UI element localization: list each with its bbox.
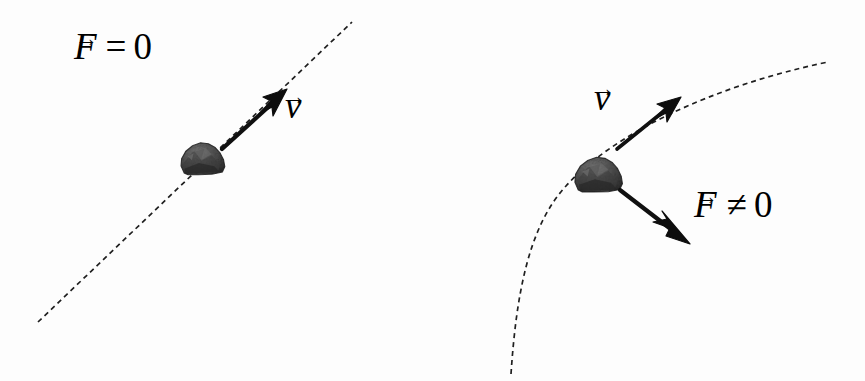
not-equals-sign: ≠ [727, 186, 747, 223]
velocity-arrow-right [617, 97, 681, 149]
physics-diagram: F → =0 v → v → F → ≠0 [0, 0, 865, 381]
force-value-left: 0 [133, 28, 152, 65]
rock-right [572, 155, 623, 193]
label-velocity-right: v → [594, 79, 610, 116]
velocity-vector-symbol-left: v → [285, 87, 301, 124]
label-velocity-left: v → [285, 87, 301, 124]
equals-sign: = [106, 28, 127, 65]
left-panel-group [38, 22, 352, 322]
force-arrow-right [620, 190, 690, 244]
label-force-not-equals-zero: F → ≠0 [694, 186, 772, 223]
right-panel-group [511, 62, 828, 374]
velocity-arrow-left [222, 89, 287, 149]
force-value-right: 0 [754, 186, 773, 223]
label-force-equals-zero: F → =0 [74, 28, 152, 65]
rock-left [178, 141, 226, 176]
velocity-vector-symbol-right: v → [594, 79, 610, 116]
force-vector-symbol-right: F → [694, 186, 717, 223]
force-vector-symbol-left: F → [74, 28, 97, 65]
